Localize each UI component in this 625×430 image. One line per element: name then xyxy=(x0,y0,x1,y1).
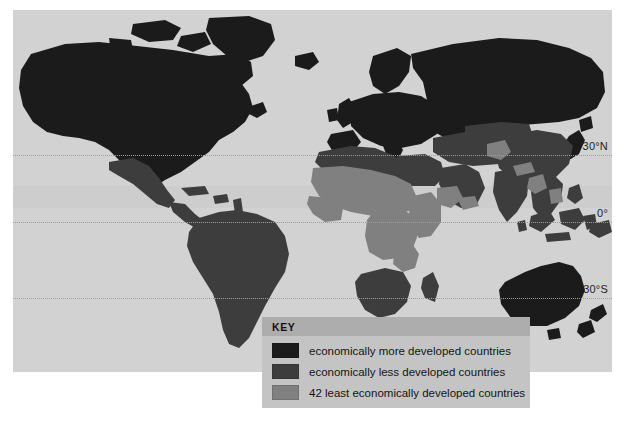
region-japan-north xyxy=(579,116,593,132)
legend-label-more-developed: economically more developed countries xyxy=(309,345,511,357)
region-great-lakes xyxy=(393,242,419,272)
legend-item-more-developed: economically more developed countries xyxy=(272,343,530,358)
legend-header-label: KEY xyxy=(272,321,295,333)
region-iceland xyxy=(295,52,319,70)
lat-label-30s: 30°S xyxy=(583,283,608,295)
region-ireland xyxy=(327,108,339,122)
world-map-figure: 30°N 0° 30°S KEY economically more devel… xyxy=(0,0,625,430)
swatch-less-developed xyxy=(272,364,299,379)
legend-item-least-developed: 42 least economically developed countrie… xyxy=(272,385,530,400)
region-cuba xyxy=(181,186,209,196)
map-legend: KEY economically more developed countrie… xyxy=(262,317,530,408)
region-philippines xyxy=(567,184,583,204)
region-borneo xyxy=(559,208,585,230)
legend-label-least-developed: 42 least economically developed countrie… xyxy=(309,387,525,399)
region-scandinavia xyxy=(369,48,411,94)
legend-item-less-developed: economically less developed countries xyxy=(272,364,530,379)
region-tasmania xyxy=(547,328,561,340)
legend-label-less-developed: economically less developed countries xyxy=(309,366,505,378)
region-greenland xyxy=(206,16,275,62)
legend-header: KEY xyxy=(262,317,530,336)
region-arctic-islands-b xyxy=(177,32,211,52)
region-new-zealand-n xyxy=(589,304,607,322)
region-new-zealand-s xyxy=(577,320,595,338)
lat-label-30n: 30°N xyxy=(583,140,608,152)
gridline-equator xyxy=(13,222,612,223)
legend-item-list: economically more developed countries ec… xyxy=(262,336,530,400)
region-southern-africa xyxy=(355,268,411,318)
swatch-more-developed xyxy=(272,343,299,358)
region-arctic-islands-a xyxy=(131,20,181,42)
gridline-30s xyxy=(13,298,612,299)
region-yemen xyxy=(457,196,479,210)
swatch-least-developed xyxy=(272,385,299,400)
region-java xyxy=(545,232,571,242)
gridline-30n xyxy=(13,155,612,156)
lat-label-equator: 0° xyxy=(597,207,608,219)
region-india xyxy=(493,168,529,222)
region-hispaniola xyxy=(213,194,229,204)
region-laos xyxy=(549,188,563,204)
